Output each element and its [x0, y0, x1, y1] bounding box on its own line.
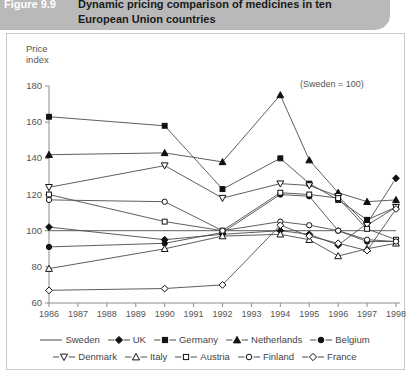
legend-label: Finland	[263, 351, 294, 362]
legend-marker-icon	[237, 351, 261, 363]
legend-marker-icon	[52, 351, 76, 363]
y-tick-label: 60	[20, 297, 42, 308]
legend-label: Italy	[150, 351, 167, 362]
legend-item-finland[interactable]: Finland	[237, 351, 294, 363]
y-tick-label: 100	[20, 225, 42, 236]
x-tick-label: 1989	[121, 309, 151, 319]
legend-marker-icon	[301, 351, 325, 363]
legend-label: Germany	[179, 334, 218, 345]
legend-marker-icon	[107, 334, 131, 346]
legend-item-netherlands[interactable]: Netherlands	[225, 334, 302, 346]
x-tick-label: 1987	[63, 309, 93, 319]
x-tick-label: 1996	[323, 309, 353, 319]
legend-item-italy[interactable]: Italy	[124, 351, 167, 363]
legend-item-france[interactable]: France	[301, 351, 357, 363]
x-tick-label: 1991	[179, 309, 209, 319]
legend-item-sweden[interactable]: Sweden	[39, 334, 99, 346]
legend-label: Sweden	[65, 334, 99, 345]
legend-marker-icon	[174, 351, 198, 363]
x-tick-label: 1994	[265, 309, 295, 319]
legend-marker-icon	[309, 334, 333, 346]
legend-label: France	[327, 351, 357, 362]
legend-label: Belgium	[335, 334, 369, 345]
y-tick-label: 120	[20, 189, 42, 200]
x-tick-label: 1990	[150, 309, 180, 319]
y-tick-label: 180	[20, 80, 42, 91]
y-tick-label: 140	[20, 152, 42, 163]
legend-marker-icon	[124, 351, 148, 363]
legend-marker-icon	[39, 334, 63, 346]
series-denmark	[46, 163, 400, 229]
chart-legend: SwedenUKGermanyNetherlandsBelgium Denmar…	[8, 331, 401, 365]
x-tick-label: 1986	[34, 309, 64, 319]
x-tick-label: 1997	[352, 309, 382, 319]
legend-marker-icon	[153, 334, 177, 346]
legend-marker-icon	[225, 334, 249, 346]
legend-item-austria[interactable]: Austria	[174, 351, 230, 363]
legend-item-germany[interactable]: Germany	[153, 334, 218, 346]
legend-row: SwedenUKGermanyNetherlandsBelgium	[8, 331, 401, 348]
x-tick-label: 1992	[208, 309, 238, 319]
legend-item-belgium[interactable]: Belgium	[309, 334, 369, 346]
legend-label: Austria	[200, 351, 230, 362]
figure-container: Figure 9.9 Dynamic pricing comparison of…	[0, 0, 409, 372]
legend-item-denmark[interactable]: Denmark	[52, 351, 117, 363]
x-tick-label: 1998	[381, 309, 409, 319]
legend-row: DenmarkItalyAustriaFinlandFrance	[8, 348, 401, 365]
legend-label: Netherlands	[251, 334, 302, 345]
y-tick-label: 160	[20, 116, 42, 127]
x-tick-label: 1995	[294, 309, 324, 319]
series-italy	[46, 231, 400, 271]
series-france	[46, 206, 400, 294]
legend-label: Denmark	[78, 351, 117, 362]
legend-label: UK	[133, 334, 146, 345]
y-tick-label: 80	[20, 261, 42, 272]
x-tick-label: 1993	[236, 309, 266, 319]
legend-item-uk[interactable]: UK	[107, 334, 146, 346]
x-tick-label: 1988	[92, 309, 122, 319]
